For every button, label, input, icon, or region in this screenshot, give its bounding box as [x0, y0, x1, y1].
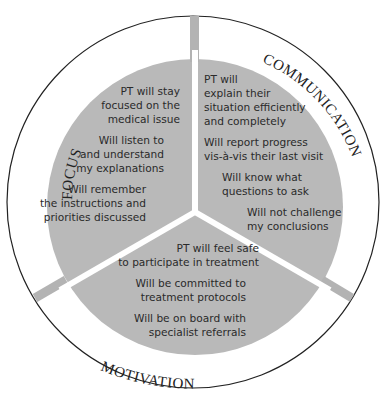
svg-text:PT will feel safe: PT will feel safe [177, 242, 259, 254]
svg-text:PT will stay: PT will stay [120, 85, 180, 97]
svg-text:treatment protocols: treatment protocols [141, 291, 246, 303]
svg-text:Will report progress: Will report progress [204, 136, 308, 148]
three-part-circle-diagram: FOCUS COMMUNICATION MOTIVATION PT will s… [0, 0, 385, 403]
svg-text:medical issue: medical issue [108, 113, 180, 125]
svg-text:Will listen to: Will listen to [99, 134, 164, 146]
svg-text:vis-à-vis their last visit: vis-à-vis their last visit [204, 150, 323, 162]
svg-text:specialist referrals: specialist referrals [149, 326, 246, 338]
svg-text:and understand: and understand [80, 148, 164, 160]
svg-text:Will be committed to: Will be committed to [136, 277, 247, 289]
svg-text:focused on the: focused on the [101, 99, 180, 111]
svg-text:Will know what: Will know what [222, 171, 302, 183]
svg-text:PT will: PT will [204, 73, 238, 85]
svg-text:and completely: and completely [204, 115, 286, 127]
svg-text:Will remember: Will remember [68, 183, 146, 195]
svg-text:the instructions and: the instructions and [40, 197, 146, 209]
svg-text:priorities discussed: priorities discussed [44, 211, 146, 223]
svg-text:my explanations: my explanations [76, 162, 164, 174]
svg-text:Will not challenge: Will not challenge [247, 206, 342, 218]
svg-text:my conclusions: my conclusions [247, 220, 329, 232]
svg-text:questions to ask: questions to ask [222, 185, 310, 197]
svg-text:to participate in treatment: to participate in treatment [118, 256, 259, 268]
svg-text:situation efficiently: situation efficiently [204, 101, 306, 113]
svg-text:explain their: explain their [204, 87, 271, 99]
svg-text:Will be on board with: Will be on board with [134, 312, 246, 324]
